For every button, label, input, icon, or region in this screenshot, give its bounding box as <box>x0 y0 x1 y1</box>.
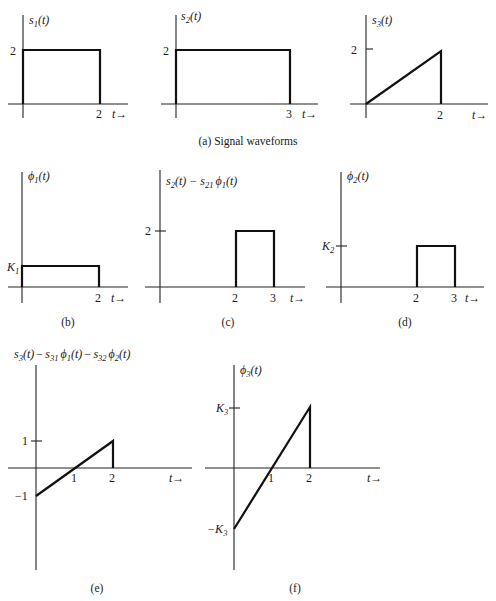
y-axis-label: ϕ1(t) <box>28 169 50 185</box>
t-arrow-label: t→ <box>112 107 127 121</box>
y-tick-2: 2 <box>10 44 16 58</box>
s1-waveform <box>23 50 100 104</box>
t-arrow-label: t→ <box>302 107 317 121</box>
x-tick-2: 2 <box>437 108 443 122</box>
y-tick-neg-K3: −K3 <box>207 522 227 538</box>
panel-phi1: ϕ1(t) K1 2 t→ (b) <box>6 169 128 329</box>
y-tick-K3: K3 <box>215 401 228 417</box>
panel-s2-minus-proj: s2(t)−s21ϕ1(t) 2 2 3 t→ (c) <box>145 170 305 329</box>
y-tick-2: 2 <box>163 44 169 58</box>
y-tick-1: 1 <box>22 434 28 448</box>
phi2-waveform <box>417 246 455 287</box>
x-tick-3: 3 <box>286 107 292 121</box>
s2-waveform <box>176 50 290 104</box>
t-arrow-label: t→ <box>169 471 184 485</box>
t-arrow-label: t→ <box>290 291 305 305</box>
panel-s1: s1(t) 2 2 t→ <box>8 13 128 121</box>
caption-d: (d) <box>398 316 412 329</box>
panel-s3: s3(t) 2 2 t→ <box>350 13 488 122</box>
y-tick-2: 2 <box>351 43 357 57</box>
y-axis-label: ϕ2(t) <box>347 169 369 185</box>
residual-waveform <box>236 231 274 287</box>
y-tick-2: 2 <box>145 224 151 238</box>
x-tick-2: 2 <box>95 291 101 305</box>
y-axis-label: s3(t)−s31ϕ1(t)−s32ϕ2(t) <box>14 347 130 363</box>
y-tick-neg1: −1 <box>15 489 28 503</box>
x-tick-1: 1 <box>268 471 274 485</box>
caption-f: (f) <box>289 582 301 595</box>
panel-s2: s2(t) 2 3 t→ <box>161 9 318 121</box>
x-tick-2: 2 <box>96 107 102 121</box>
x-tick-2: 2 <box>413 291 419 305</box>
t-arrow-label: t→ <box>111 291 126 305</box>
t-arrow-label: t→ <box>367 471 382 485</box>
caption-a: (a) Signal waveforms <box>199 135 299 148</box>
t-arrow-label: t→ <box>465 291 480 305</box>
x-tick-2: 2 <box>109 471 115 485</box>
x-tick-3: 3 <box>270 291 276 305</box>
caption-e: (e) <box>91 582 104 595</box>
caption-c: (c) <box>222 316 235 329</box>
y-axis-label: s3(t) <box>372 13 392 29</box>
caption-b: (b) <box>61 316 75 329</box>
x-tick-2: 2 <box>232 291 238 305</box>
s3-waveform <box>366 51 441 104</box>
x-tick-1: 1 <box>71 471 77 485</box>
y-tick-K2: K2 <box>321 239 335 255</box>
x-tick-2: 2 <box>306 471 312 485</box>
x-tick-3: 3 <box>451 291 457 305</box>
y-axis-label: s1(t) <box>29 13 49 29</box>
panel-phi2: ϕ2(t) K2 2 3 t→ (d) <box>321 169 484 329</box>
phi1-waveform <box>22 266 99 287</box>
y-tick-K1: K1 <box>6 260 19 276</box>
panel-phi3: ϕ3(t) K3 −K3 1 2 t→ (f) <box>205 363 382 595</box>
y-axis-label: s2(t)−s21ϕ1(t) <box>166 174 237 190</box>
y-axis-label: ϕ3(t) <box>240 363 262 379</box>
signal-waveforms-figure: s1(t) 2 2 t→ s2(t) 2 3 t→ s3(t) 2 2 t→ (… <box>0 0 496 601</box>
panel-s3-minus-proj: s3(t)−s31ϕ1(t)−s32ϕ2(t) 1 −1 1 2 t→ (e) <box>8 347 192 595</box>
y-axis-label: s2(t) <box>181 9 201 25</box>
t-arrow-label: t→ <box>472 108 487 122</box>
